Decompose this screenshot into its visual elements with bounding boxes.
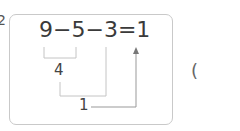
answer-blank[interactable]: ( — [191, 60, 198, 81]
final-step-result: 1 — [79, 96, 89, 114]
arrow-up-icon — [133, 47, 139, 54]
calculation-connector-lines — [0, 0, 240, 131]
intermediate-result: 4 — [54, 61, 64, 79]
